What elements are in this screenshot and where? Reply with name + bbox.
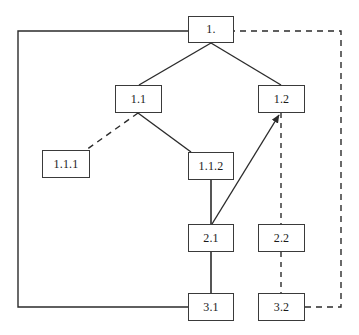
node-2-1[interactable]: 2.1 — [188, 224, 234, 252]
node-2-2-label: 2.2 — [274, 232, 290, 245]
node-1-1[interactable]: 1.1 — [115, 85, 162, 113]
node-3-2[interactable]: 3.2 — [258, 293, 305, 321]
edge-1-1-to-1-1-1 — [86, 113, 138, 150]
node-1-1-2[interactable]: 1.1.2 — [188, 152, 234, 180]
node-2-2[interactable]: 2.2 — [258, 224, 305, 252]
node-1-2[interactable]: 1.2 — [258, 85, 305, 113]
edge-1-to-1-1 — [139, 43, 211, 85]
edge-1-1-to-1-1-2 — [138, 113, 191, 152]
edge-3-2-to-1-right-route — [234, 31, 341, 307]
node-3-2-label: 3.2 — [274, 301, 290, 314]
node-1-1-2-label: 1.1.2 — [199, 160, 224, 173]
node-1[interactable]: 1. — [188, 16, 234, 43]
node-1-1-label: 1.1 — [131, 93, 147, 106]
node-2-1-label: 2.1 — [203, 232, 219, 245]
node-1-1-1[interactable]: 1.1.1 — [42, 150, 90, 178]
node-3-1-label: 3.1 — [203, 301, 219, 314]
node-1-2-label: 1.2 — [274, 93, 290, 106]
node-3-1[interactable]: 3.1 — [188, 293, 234, 321]
node-1-label: 1. — [206, 23, 215, 36]
edge-1-to-1-2 — [211, 43, 281, 85]
diagram-canvas: 1. 1.1 1.2 1.1.1 1.1.2 2.1 2.2 3.1 3.2 — [0, 0, 359, 335]
node-1-1-1-label: 1.1.1 — [54, 158, 79, 171]
